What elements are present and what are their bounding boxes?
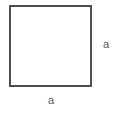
side-label-right: a <box>99 39 113 50</box>
side-label-bottom: a <box>44 95 58 106</box>
square-shape <box>10 6 91 86</box>
square-diagram: a a <box>0 0 117 115</box>
diagram-shape-layer <box>0 0 117 115</box>
